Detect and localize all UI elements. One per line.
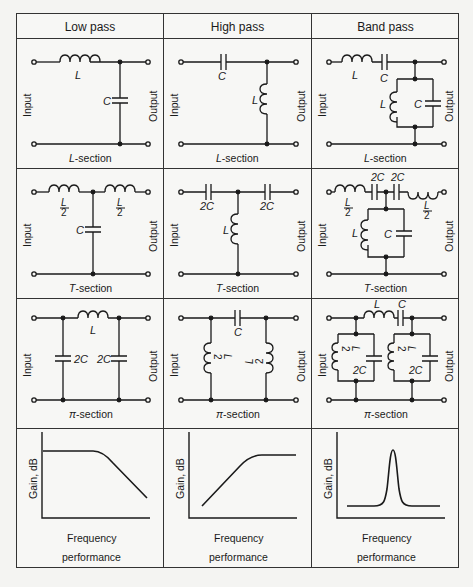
svg-text:2: 2 xyxy=(61,207,67,218)
low-pass-t-section: L2 L2 C Input Output T-section xyxy=(17,169,163,298)
svg-text:L-section: L-section xyxy=(69,152,112,164)
capacitor-icon xyxy=(111,318,127,400)
svg-text:Input: Input xyxy=(168,224,180,247)
inductor-icon xyxy=(60,55,100,62)
header-band-pass: Band pass xyxy=(312,14,459,39)
svg-text:Input: Input xyxy=(21,224,33,247)
band-pass-t-section: 2C 2C L2 L2 L C Input Output T-section xyxy=(312,169,459,298)
capacitor-icon xyxy=(183,54,294,70)
svg-text:T-section: T-section xyxy=(364,282,407,294)
inductor-icon xyxy=(204,343,211,373)
svg-text:2: 2 xyxy=(424,210,430,221)
inductor-icon xyxy=(388,343,394,370)
svg-text:2: 2 xyxy=(212,354,223,360)
inductor-icon xyxy=(266,343,273,373)
svg-text:Input: Input xyxy=(316,354,328,377)
svg-text:Output: Output xyxy=(295,220,307,252)
svg-text:2C: 2C xyxy=(73,353,88,365)
input-terminal-icon xyxy=(32,60,36,64)
svg-text:2C: 2C xyxy=(259,200,274,212)
svg-text:Output: Output xyxy=(443,350,455,382)
capacitor-icon xyxy=(112,62,128,144)
svg-text:L: L xyxy=(352,227,358,239)
svg-text:2: 2 xyxy=(396,346,407,352)
svg-text:2C: 2C xyxy=(370,171,385,183)
band-pass-curve xyxy=(347,450,440,506)
inductor-icon xyxy=(105,185,135,192)
svg-text:C: C xyxy=(384,228,392,240)
high-pass-pi-section: C L2 L2 Input Output π-section xyxy=(164,299,311,428)
capacitor-icon xyxy=(183,310,294,326)
svg-text:L: L xyxy=(380,98,386,110)
inductor-icon xyxy=(332,343,338,370)
svg-text:Gain, dB: Gain, dB xyxy=(174,458,186,499)
svg-text:Output: Output xyxy=(295,350,307,382)
svg-text:Output: Output xyxy=(147,220,159,252)
svg-text:2: 2 xyxy=(254,358,265,364)
inductor-icon xyxy=(260,84,267,114)
low-pass-curve xyxy=(43,451,147,498)
svg-text:2C: 2C xyxy=(352,364,367,376)
header-low-pass: Low pass xyxy=(17,14,163,39)
svg-text:L: L xyxy=(90,324,96,336)
svg-text:Output: Output xyxy=(147,90,159,122)
capacitor-icon xyxy=(55,318,71,400)
header-high-pass: High pass xyxy=(164,14,311,39)
output-terminal-icon xyxy=(146,142,150,146)
svg-text:T-section: T-section xyxy=(216,282,259,294)
inductor-icon xyxy=(364,311,394,318)
svg-text:2C: 2C xyxy=(199,200,214,212)
high-pass-curve xyxy=(202,455,296,506)
svg-text:Input: Input xyxy=(21,354,33,377)
input-terminal-icon xyxy=(32,142,36,146)
svg-text:2: 2 xyxy=(117,207,123,218)
low-pass-response-plot: Gain, dB Frequency performance xyxy=(17,429,163,568)
svg-text:C: C xyxy=(103,95,111,107)
svg-text:L: L xyxy=(223,224,229,236)
svg-text:C: C xyxy=(234,326,242,338)
svg-text:C: C xyxy=(414,98,422,110)
high-pass-l-section: C L Input Output L-section xyxy=(164,39,311,168)
svg-text:L: L xyxy=(252,94,258,106)
svg-text:Frequency: Frequency xyxy=(214,532,264,544)
svg-text:C: C xyxy=(218,70,226,82)
capacitor-icon xyxy=(394,310,442,326)
svg-text:2C: 2C xyxy=(96,353,111,365)
svg-text:Frequency: Frequency xyxy=(362,532,412,544)
svg-text:Input: Input xyxy=(168,354,180,377)
inductor-icon xyxy=(408,192,438,199)
svg-text:Output: Output xyxy=(295,90,307,122)
plot-axes xyxy=(189,432,297,518)
svg-text:L: L xyxy=(352,69,358,81)
svg-text:performance: performance xyxy=(62,551,121,563)
plot-axes xyxy=(42,432,150,518)
svg-text:2C: 2C xyxy=(390,171,405,183)
svg-text:L-section: L-section xyxy=(216,152,259,164)
svg-text:Output: Output xyxy=(147,350,159,382)
low-pass-pi-section: L 2C 2C Input Output π-section xyxy=(17,299,163,428)
svg-text:Input: Input xyxy=(168,94,180,117)
svg-text:2C: 2C xyxy=(408,364,423,376)
inductor-icon xyxy=(49,185,79,192)
svg-text:Input: Input xyxy=(316,94,328,117)
capacitor-icon xyxy=(372,54,442,70)
low-pass-l-section: L C Input Output L-section xyxy=(17,39,163,168)
svg-text:T-section: T-section xyxy=(69,282,112,294)
svg-text:2: 2 xyxy=(340,346,351,352)
output-terminal-icon xyxy=(146,60,150,64)
svg-text:Gain, dB: Gain, dB xyxy=(27,458,39,499)
svg-text:performance: performance xyxy=(357,551,416,563)
inductor-icon xyxy=(361,220,368,250)
inductor-icon xyxy=(342,55,372,62)
inductor-icon xyxy=(335,185,365,192)
high-pass-t-section: 2C 2C L Input Output T-section xyxy=(164,169,311,298)
svg-text:C: C xyxy=(380,72,388,84)
svg-text:L-section: L-section xyxy=(364,152,407,164)
svg-text:Input: Input xyxy=(316,224,328,247)
plot-axes xyxy=(337,432,445,518)
svg-text:performance: performance xyxy=(209,551,268,563)
svg-text:Output: Output xyxy=(443,220,455,252)
svg-text:C: C xyxy=(76,224,84,236)
capacitor-icon xyxy=(85,192,101,274)
filter-table: Low pass High pass Band pass L C Input O… xyxy=(16,13,459,568)
